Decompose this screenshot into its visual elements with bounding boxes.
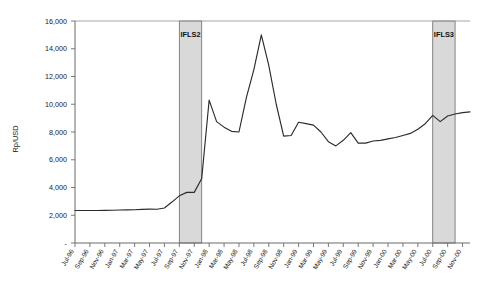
x-tick-label: Jul-00: [418, 248, 433, 267]
y-tick-label: 6,000: [49, 155, 67, 164]
x-axis-ticks: Jul-96Sep-96Nov-96Jan-97Mar-97May-97Jul-…: [60, 243, 463, 271]
x-tick-label: May-98: [222, 248, 240, 271]
exchange-rate-line: [75, 35, 470, 211]
y-tick-label: 12,000: [45, 72, 67, 81]
x-tick-label: Nov-00: [446, 248, 463, 270]
x-tick-label: May-00: [401, 248, 419, 271]
band-ifls3: [433, 21, 455, 243]
y-tick-label: 16,000: [45, 17, 67, 26]
y-tick-label: 4,000: [49, 183, 67, 192]
x-tick-label: Nov-97: [177, 248, 194, 270]
x-tick-label: Nov-96: [88, 248, 105, 270]
y-tick-label: 8,000: [49, 128, 67, 137]
band-labels: IFLS2IFLS3: [180, 30, 454, 39]
band-ifls2: [179, 21, 201, 243]
y-tick-label: 10,000: [45, 100, 67, 109]
x-tick-label: Jul-99: [328, 248, 343, 267]
x-tick-label: Nov-99: [356, 248, 373, 270]
x-tick-label: Nov-98: [267, 248, 284, 270]
y-axis-title: Rp/USD: [11, 125, 20, 152]
exchange-rate-chart: -2,0004,0006,0008,00010,00012,00014,0001…: [0, 0, 484, 287]
band-label-ifls3: IFLS3: [434, 30, 454, 39]
x-tick-label: Jul-96: [60, 248, 75, 267]
x-tick-label: Jul-98: [239, 248, 254, 267]
x-tick-label: May-99: [311, 248, 329, 271]
x-tick-label: May-97: [132, 248, 150, 271]
y-tick-label: 14,000: [45, 44, 67, 53]
chart-canvas: -2,0004,0006,0008,00010,00012,00014,0001…: [0, 0, 484, 287]
x-tick-label: Jul-97: [149, 248, 164, 267]
y-tick-label: 2,000: [49, 211, 67, 220]
y-axis-ticks: -2,0004,0006,0008,00010,00012,00014,0001…: [45, 17, 75, 248]
y-tick-label: -: [65, 239, 68, 248]
band-label-ifls2: IFLS2: [180, 30, 200, 39]
